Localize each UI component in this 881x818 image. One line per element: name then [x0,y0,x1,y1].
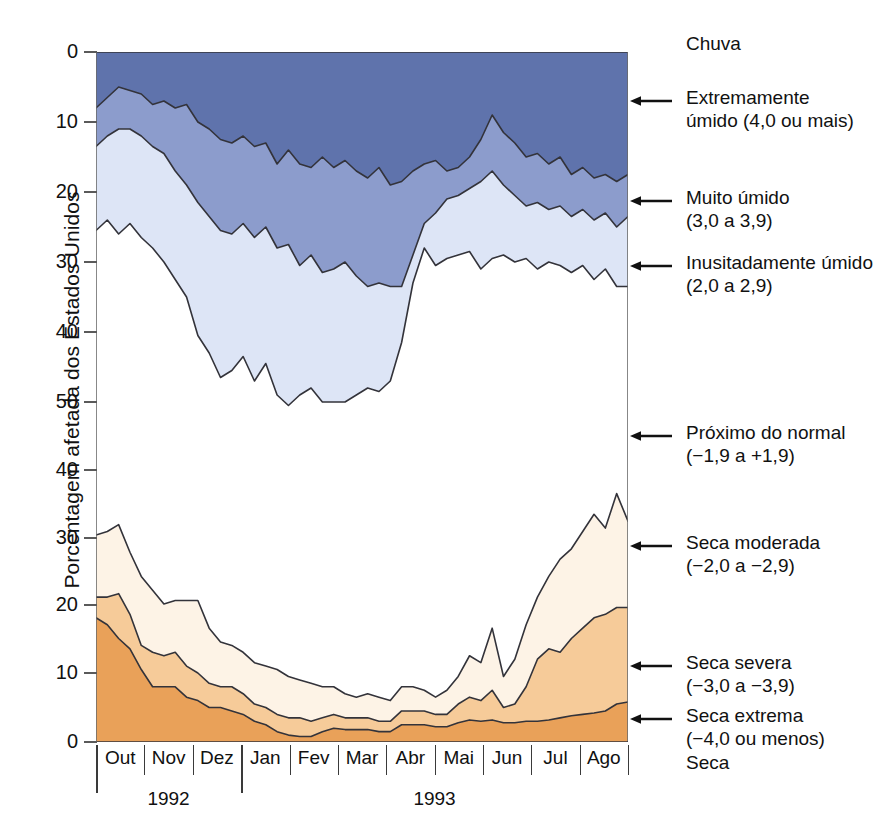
x-axis-separator [628,745,629,775]
y-tick-label: 20 [34,181,78,201]
x-axis-month-label: Mar [338,747,386,769]
stacked-area-svg [96,52,628,742]
arrow-left-icon [628,539,674,553]
y-tick-mark [84,331,97,333]
legend-entry-line2: úmido (4,0 ou mais) [686,109,854,132]
x-axis-month-label: Dez [193,747,241,769]
legend-entry-text: Inusitadamente úmido(2,0 a 2,9) [686,251,873,297]
legend-entry-text: Muito úmido(3,0 a 3,9) [686,186,790,232]
legend-entry-line2: (−4,0 ou menos) [686,727,825,750]
y-tick-mark [84,121,97,123]
y-axis-tick-labels: 01020304050403020100 [34,0,78,818]
x-axis-year-tick [241,745,243,793]
y-tick-label: 0 [34,41,78,61]
legend-caption-rain: Chuva [686,33,741,55]
y-tick-label: 50 [34,391,78,411]
y-tick-mark [84,604,97,606]
y-tick-mark [84,672,97,674]
legend-entry-line2: (3,0 a 3,9) [686,209,790,232]
legend-entry-line1: Próximo do normal [686,421,845,444]
legend-entry-line2: (−2,0 a −2,9) [686,554,820,577]
arrow-left-icon [628,429,674,443]
legend-entry-line2: (−1,9 a +1,9) [686,444,845,467]
legend-entry-line1: Seca extrema [686,704,825,727]
x-axis: OutNovDezJanFevMarAbrMaiJunJulAgo1992199… [96,742,628,782]
y-tick-mark [84,51,97,53]
y-tick-mark [84,741,97,743]
x-axis-month-label: Nov [144,747,192,769]
x-axis-year-tick [96,745,98,793]
y-tick-label: 20 [34,594,78,614]
x-axis-month-label: Ago [580,747,628,769]
y-tick-mark [84,469,97,471]
chart-root: Porcentagem afetada dos Estados Unidos 0… [0,0,881,818]
legend-entry-line1: Inusitadamente úmido [686,251,873,274]
y-tick-label: 30 [34,251,78,271]
x-axis-month-label: Abr [386,747,434,769]
y-tick-mark [84,191,97,193]
arrow-left-icon [628,259,674,273]
x-axis-month-label: Out [96,747,144,769]
legend-entry-text: Seca extrema(−4,0 ou menos) [686,704,825,750]
arrow-left-icon [628,194,674,208]
plot-area [96,52,628,742]
legend-entry-line2: (2,0 a 2,9) [686,274,873,297]
legend-entry-line1: Extremamente [686,86,854,109]
y-tick-mark [84,261,97,263]
legend-entry-text: Extremamenteúmido (4,0 ou mais) [686,86,854,132]
legend-entry-line2: (−3,0 a −3,9) [686,674,795,697]
y-tick-label: 10 [34,111,78,131]
legend-entry-text: Seca moderada(−2,0 a −2,9) [686,531,820,577]
y-tick-label: 30 [34,527,78,547]
y-tick-label: 0 [34,731,78,751]
x-axis-month-label: Jan [241,747,289,769]
x-axis-year-label: 1992 [96,788,241,810]
arrow-left-icon [628,94,674,108]
y-tick-mark [84,537,97,539]
arrow-left-icon [628,659,674,673]
x-axis-month-label: Fev [290,747,338,769]
legend-entry-text: Seca severa(−3,0 a −3,9) [686,651,795,697]
y-tick-mark [84,401,97,403]
y-tick-label: 10 [34,662,78,682]
x-axis-month-label: Jul [531,747,579,769]
legend-entry-line1: Muito úmido [686,186,790,209]
y-tick-label: 40 [34,321,78,341]
x-axis-month-label: Jun [483,747,531,769]
legend-caption-drought: Seca [686,752,729,774]
arrow-left-icon [628,712,674,726]
legend-entry-line1: Seca moderada [686,531,820,554]
x-axis-year-label: 1993 [241,788,628,810]
x-axis-month-label: Mai [435,747,483,769]
legend-entry-text: Próximo do normal(−1,9 a +1,9) [686,421,845,467]
y-tick-label: 40 [34,459,78,479]
legend-entry-line1: Seca severa [686,651,795,674]
